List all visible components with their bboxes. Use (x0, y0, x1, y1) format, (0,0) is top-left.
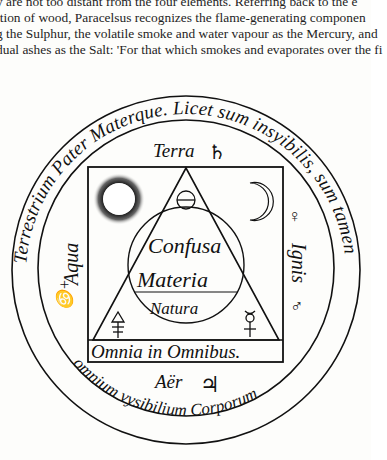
alchemical-emblem-figure: Terrestrium Pater Materque. Licet sum in… (0, 80, 371, 460)
label-aer: Aër (153, 371, 183, 392)
venus-icon: ♀ (288, 206, 302, 226)
sulphur-icon (112, 312, 124, 338)
label-ignis: Ignis (287, 242, 310, 283)
mercury-icon (244, 311, 256, 337)
text-line: y are not too distant from the four elem… (0, 0, 387, 10)
label-confusa: Confusa (148, 233, 221, 258)
body-text: y are not too distant from the four elem… (0, 0, 387, 58)
aqua-symbol-icon: ♋+ (55, 279, 74, 310)
text-line: dual ashes as the Salt: 'For that which … (0, 42, 387, 58)
label-omnia: Omnia in Omnibus. (91, 341, 240, 362)
label-materia: Materia (136, 267, 208, 292)
text-line: g the Sulphur, the volatile smoke and wa… (0, 26, 387, 42)
label-natura: Natura (149, 299, 198, 318)
moon-icon (250, 183, 273, 221)
mars-icon: ♂ (290, 296, 304, 316)
label-terra: Terra (153, 140, 195, 161)
jupiter-icon: ♃ (200, 372, 220, 397)
saturn-icon: ♄ (208, 141, 226, 163)
text-line: ition of wood, Paracelsus recognizes the… (0, 10, 387, 26)
